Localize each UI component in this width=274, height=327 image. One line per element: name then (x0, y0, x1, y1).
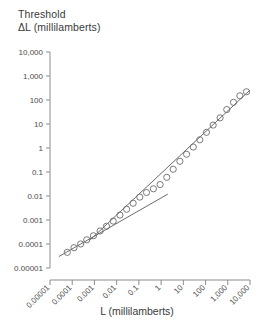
data-point (117, 212, 123, 218)
data-point (164, 174, 170, 180)
data-point (124, 206, 130, 212)
data-point (177, 158, 183, 164)
data-point (237, 93, 243, 99)
data-point (143, 189, 149, 195)
y-tick-label: 0.0001 (19, 240, 44, 249)
y-tick-label: 10 (34, 120, 43, 129)
x-tick-label: 1,000 (209, 283, 230, 304)
y-tick-label: 0.1 (32, 168, 44, 177)
plot-svg: 0.000010.00010.0010.010.11101001,00010,0… (0, 0, 274, 327)
data-point (137, 194, 143, 200)
data-point (170, 166, 176, 172)
data-point (157, 181, 163, 187)
chart-root: Threshold ΔL (millilamberts) 0.000010.00… (0, 0, 274, 327)
y-tick-label: 0.01 (27, 192, 43, 201)
x-tick-label: 0.001 (75, 283, 96, 304)
data-points (64, 89, 249, 256)
data-point (230, 99, 236, 105)
y-tick-label: 100 (30, 96, 44, 105)
fit-line-lower-branch (59, 194, 168, 256)
x-axis-title: L (millilamberts) (0, 305, 274, 317)
y-tick-label: 1 (39, 144, 44, 153)
y-tick-label: 10,000 (19, 48, 44, 57)
plot-area: 0.000010.00010.0010.010.11101001,00010,0… (0, 0, 274, 327)
y-tick-label: 1,000 (23, 72, 44, 81)
y-tick-label: 0.001 (23, 216, 44, 225)
x-tick-label: 0.0001 (50, 283, 74, 307)
data-point (190, 144, 196, 150)
x-tick-label: 0.01 (101, 283, 119, 301)
x-tick-label: 100 (191, 283, 207, 299)
data-point (150, 186, 156, 192)
data-point (64, 249, 70, 255)
x-tick-label: 10,000 (228, 283, 252, 307)
y-tick-label: 0.00001 (14, 264, 43, 273)
y-axis: 0.000010.00010.0010.010.11101001,00010,0… (14, 48, 50, 273)
data-point (183, 151, 189, 157)
data-point (130, 200, 136, 206)
